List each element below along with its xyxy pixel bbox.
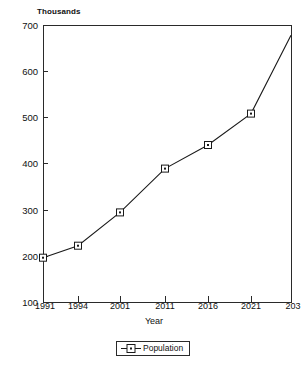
x-tick-label-2016: 2016 <box>198 301 218 311</box>
x-tick-label-2001: 2001 <box>110 301 130 311</box>
x-axis-title: Year <box>0 316 308 326</box>
x-tick-label-2021: 2021 <box>241 301 261 311</box>
data-point-center-dot <box>77 245 79 247</box>
x-tick-label-1994: 1994 <box>68 301 88 311</box>
x-tick-label-2011: 2011 <box>155 301 174 311</box>
data-point-center-dot <box>207 144 209 146</box>
data-point-center-dot <box>250 113 252 115</box>
square-dot-marker-icon <box>121 344 141 353</box>
data-point-center-dot <box>42 257 44 259</box>
x-tick-label-1991: 1991 <box>35 301 55 311</box>
population-line-chart: Thousands 700 600 500 400 300 200 100 <box>0 0 308 373</box>
series-population <box>40 35 292 261</box>
chart-legend: Population <box>116 341 190 356</box>
y-axis-ticks <box>43 71 48 256</box>
plot-frame <box>43 25 291 302</box>
data-point-center-dot <box>164 168 166 170</box>
data-point-center-dot <box>119 211 121 213</box>
legend-label-population: Population <box>143 344 183 353</box>
x-tick-label-2031: 203 <box>285 301 300 311</box>
